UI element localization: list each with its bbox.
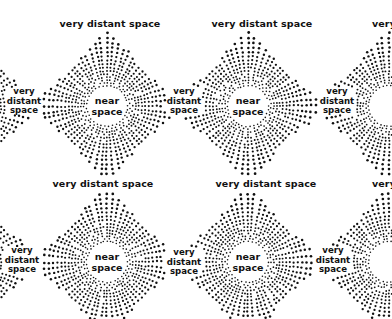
very-distant-space-stacked-label: very distant space	[316, 246, 350, 275]
very-distant-space-stacked-label: very distant space	[320, 87, 354, 116]
space-word: space	[233, 262, 264, 273]
near-word: near	[92, 95, 123, 106]
very-distant-space-label: very distant space	[216, 179, 317, 189]
space-word: space	[5, 265, 39, 275]
near-word: near	[233, 95, 264, 106]
very-distant-space-label: very distant space	[53, 179, 154, 189]
very-partial-label: very	[372, 19, 392, 29]
space-word: space	[7, 106, 41, 116]
near-word: near	[233, 251, 264, 262]
near-space-label: near space	[92, 95, 123, 117]
very-distant-space-stacked-label: very distant space	[167, 87, 201, 116]
very-distant-space-stacked-label: very distant space	[167, 248, 201, 277]
near-distant-space-diagram: near space near space near space near sp…	[0, 0, 392, 319]
very-distant-space-label: very distant space	[60, 19, 161, 29]
very-distant-space-label: very distant space	[212, 19, 313, 29]
space-word: space	[316, 265, 350, 275]
near-word: near	[92, 251, 123, 262]
very-partial-label: very	[372, 179, 392, 189]
space-word: space	[92, 262, 123, 273]
very-distant-space-stacked-label: very distant space	[5, 246, 39, 275]
near-space-label: near space	[233, 251, 264, 273]
space-word: space	[167, 106, 201, 116]
space-word: space	[233, 106, 264, 117]
near-space-label: near space	[233, 95, 264, 117]
space-word: space	[92, 106, 123, 117]
near-space-label: near space	[92, 251, 123, 273]
space-word: space	[167, 267, 201, 277]
space-word: space	[320, 106, 354, 116]
very-distant-space-stacked-label: very distant space	[7, 87, 41, 116]
